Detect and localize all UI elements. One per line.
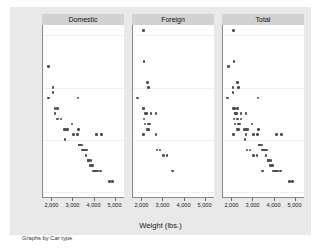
panel-plot-area <box>42 25 124 197</box>
x-tick-mark <box>115 198 116 201</box>
figure-note: Graphs by Car type <box>22 235 72 241</box>
x-axis-label: Weight (lbs.) <box>10 221 311 230</box>
data-point <box>76 133 79 136</box>
x-axis-line <box>222 197 304 198</box>
data-point <box>162 154 165 157</box>
data-point <box>85 149 88 152</box>
x-tick-label: 5,000 <box>284 202 306 208</box>
data-point <box>85 154 88 157</box>
data-point <box>143 118 146 121</box>
data-point <box>249 149 252 152</box>
x-tick-label: 4,000 <box>173 202 195 208</box>
x-axis-line <box>132 197 214 198</box>
data-point <box>265 154 268 157</box>
data-point <box>236 81 239 84</box>
data-point <box>155 133 158 136</box>
panel-plot-area <box>132 25 214 197</box>
x-tick-label: 3,000 <box>241 202 263 208</box>
data-point <box>90 159 93 162</box>
data-point <box>146 81 149 84</box>
data-point <box>226 97 229 100</box>
data-point <box>232 91 235 94</box>
data-point <box>280 133 283 136</box>
grid-line <box>43 192 124 193</box>
data-point <box>238 123 241 126</box>
data-point <box>56 107 59 110</box>
grid-line <box>133 192 214 193</box>
data-point <box>99 170 102 173</box>
panel-domestic: Domestic <box>42 14 124 197</box>
data-point <box>52 86 55 89</box>
data-point <box>71 123 74 126</box>
x-tick-mark <box>274 198 275 201</box>
data-point <box>100 133 103 136</box>
data-point <box>246 128 249 131</box>
data-point <box>240 112 243 115</box>
data-point <box>81 144 84 147</box>
data-point <box>159 149 162 152</box>
plot-region: Mileage (mpg) 10203040 DomesticForeignTo… <box>42 14 304 209</box>
data-point <box>233 60 236 63</box>
data-point <box>261 144 264 147</box>
data-point <box>232 107 235 110</box>
x-tick-label: 2,000 <box>220 202 242 208</box>
grid-line <box>223 88 304 89</box>
data-point <box>257 97 260 100</box>
x-tick-label: 5,000 <box>194 202 216 208</box>
data-point <box>275 133 278 136</box>
x-tick-label: 4,000 <box>263 202 285 208</box>
grid-line <box>133 140 214 141</box>
data-point <box>237 86 240 89</box>
data-point <box>155 112 158 115</box>
data-point <box>233 118 236 121</box>
data-point <box>111 180 114 183</box>
data-point <box>271 164 274 167</box>
panel-total: Total <box>222 14 304 197</box>
panel-plot-area <box>222 25 304 197</box>
data-point <box>166 154 169 157</box>
data-point <box>276 170 279 173</box>
x-tick-mark <box>94 198 95 201</box>
data-point <box>145 112 148 115</box>
data-point <box>240 118 243 121</box>
data-point <box>256 154 259 157</box>
grid-line <box>133 35 214 36</box>
x-tick-mark <box>295 198 296 201</box>
data-point <box>95 133 98 136</box>
data-point <box>257 128 260 131</box>
data-point <box>147 128 150 131</box>
data-point <box>246 149 249 152</box>
data-point <box>237 128 240 131</box>
data-point <box>91 164 94 167</box>
grid-line <box>223 192 304 193</box>
panel-title: Domestic <box>42 14 124 25</box>
x-tick-label: 3,000 <box>151 202 173 208</box>
panel-title: Foreign <box>132 14 214 25</box>
data-point <box>54 112 57 115</box>
x-tick-label: 2,000 <box>40 202 62 208</box>
data-point <box>291 180 294 183</box>
data-point <box>236 118 239 121</box>
x-tick-label: 4,000 <box>83 202 105 208</box>
data-point <box>171 170 174 173</box>
data-point <box>156 149 159 152</box>
data-point <box>235 112 238 115</box>
data-point <box>72 133 75 136</box>
data-point <box>147 86 150 89</box>
data-point <box>252 154 255 157</box>
data-point <box>232 86 235 89</box>
data-point <box>136 97 139 100</box>
x-tick-mark <box>72 198 73 201</box>
data-point <box>251 123 254 126</box>
x-tick-mark <box>141 198 142 201</box>
x-tick-mark <box>162 198 163 201</box>
data-point <box>236 107 239 110</box>
data-point <box>66 128 69 131</box>
data-point <box>245 133 248 136</box>
data-point <box>148 123 151 126</box>
grid-line <box>43 35 124 36</box>
data-point <box>47 97 50 100</box>
grid-line <box>43 88 124 89</box>
data-point <box>56 118 59 121</box>
data-point <box>261 170 264 173</box>
